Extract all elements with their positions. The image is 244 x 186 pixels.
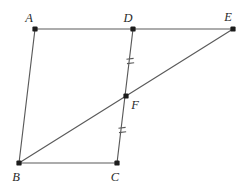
vertex-label-E: E [223,10,232,24]
vertex-dot-D [130,26,135,31]
vertex-dot-B [16,160,21,165]
tick-DF [126,58,134,63]
vertex-dot-C [114,160,119,165]
vertex-dot-F [123,93,128,98]
geometry-canvas: A D E F B C [0,0,244,186]
vertex-dot-group [16,26,235,165]
vertex-label-B: B [12,170,20,184]
vertex-label-F: F [130,98,139,112]
vertex-label-A: A [24,11,33,25]
segment-A-B [19,29,35,163]
tick-FC [118,127,126,132]
vertex-label-C: C [111,170,120,184]
vertex-dot-E [230,26,235,31]
vertex-dot-A [32,26,37,31]
vertex-label-group: A D E F B C [12,10,232,184]
geometry-figure: A D E F B C [0,0,244,186]
vertex-label-D: D [122,11,132,25]
